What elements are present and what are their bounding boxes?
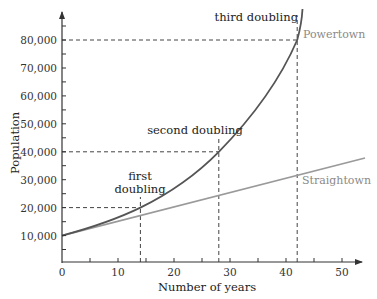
third-doubling-label: third doubling <box>215 10 299 24</box>
x-tick-0: 0 <box>59 266 66 278</box>
second-doubling-label: second doubling <box>147 123 243 137</box>
y-tick-50000: 50,000 <box>20 118 57 130</box>
first-doubling-label-line2: doubling <box>114 182 166 196</box>
x-tick-40: 40 <box>279 266 292 278</box>
straightown-label: Straightown <box>302 174 371 187</box>
population-growth-chart: 0 10 20 30 40 50 10,000 20,000 30,000 40… <box>0 0 377 299</box>
y-axis-title: Population <box>8 111 22 174</box>
y-tick-60000: 60,000 <box>20 90 57 102</box>
powertown-label: Powertown <box>303 28 365 41</box>
y-tick-70000: 70,000 <box>20 62 57 74</box>
y-tick-labels: 10,000 20,000 30,000 40,000 50,000 60,00… <box>20 34 57 242</box>
y-tick-20000: 20,000 <box>20 202 57 214</box>
y-tick-10000: 10,000 <box>20 230 57 242</box>
x-tick-20: 20 <box>167 266 180 278</box>
x-tick-labels: 0 10 20 30 40 50 <box>59 266 349 278</box>
x-tick-50: 50 <box>335 266 348 278</box>
y-tick-30000: 30,000 <box>20 174 57 186</box>
x-axis-title: Number of years <box>158 280 256 294</box>
x-tick-30: 30 <box>223 266 236 278</box>
x-tick-10: 10 <box>111 266 124 278</box>
first-doubling-label-line1: first <box>128 169 152 183</box>
y-tick-80000: 80,000 <box>20 34 57 46</box>
y-tick-40000: 40,000 <box>20 146 57 158</box>
straightown-line <box>62 158 365 236</box>
